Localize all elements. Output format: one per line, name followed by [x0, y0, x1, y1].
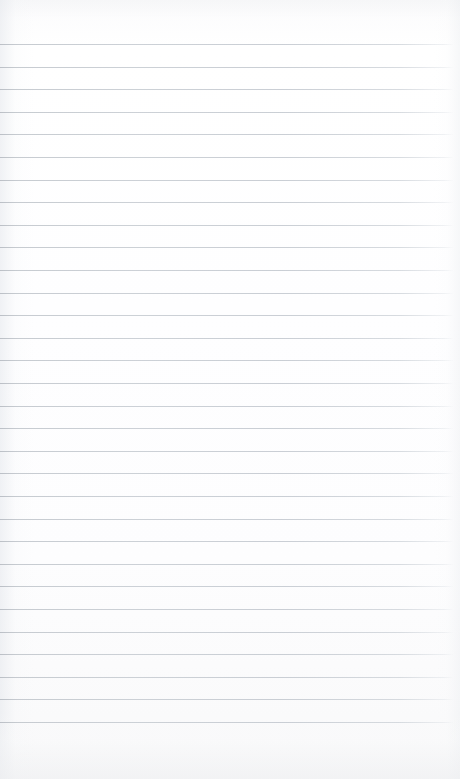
writing-line-slot[interactable]	[0, 22, 453, 44]
writing-line-slot[interactable]	[0, 384, 453, 406]
writing-line-slot[interactable]	[0, 565, 453, 587]
notebook-page	[0, 0, 460, 779]
writing-line-slot[interactable]	[0, 226, 453, 248]
writing-line-slot[interactable]	[0, 633, 453, 655]
writing-line-slot[interactable]	[0, 135, 453, 157]
writing-line-slot[interactable]	[0, 203, 453, 225]
writing-line-slot[interactable]	[0, 271, 453, 293]
writing-line-slot[interactable]	[0, 45, 453, 67]
writing-line-slot[interactable]	[0, 339, 453, 361]
writing-line-slot[interactable]	[0, 474, 453, 496]
writing-line-slot[interactable]	[0, 587, 453, 609]
writing-line-slot[interactable]	[0, 497, 453, 519]
writing-line-slot[interactable]	[0, 158, 453, 180]
writing-line-slot[interactable]	[0, 68, 453, 90]
writing-line-slot[interactable]	[0, 294, 453, 316]
writing-line-slot[interactable]	[0, 361, 453, 383]
writing-line-slot[interactable]	[0, 407, 453, 429]
writing-line-slot[interactable]	[0, 316, 453, 338]
writing-line-slot[interactable]	[0, 452, 453, 474]
writing-line-slot[interactable]	[0, 610, 453, 632]
writing-line-slot[interactable]	[0, 655, 453, 677]
writing-line-slot[interactable]	[0, 113, 453, 135]
writing-line-slot[interactable]	[0, 542, 453, 564]
writing-line-slot[interactable]	[0, 429, 453, 451]
ruled-line	[0, 722, 453, 723]
writing-line-slot[interactable]	[0, 700, 453, 722]
writing-line-slot[interactable]	[0, 520, 453, 542]
writing-line-slot[interactable]	[0, 181, 453, 203]
writing-line-slot[interactable]	[0, 248, 453, 270]
writing-line-slot[interactable]	[0, 678, 453, 700]
writing-line-slot[interactable]	[0, 90, 453, 112]
